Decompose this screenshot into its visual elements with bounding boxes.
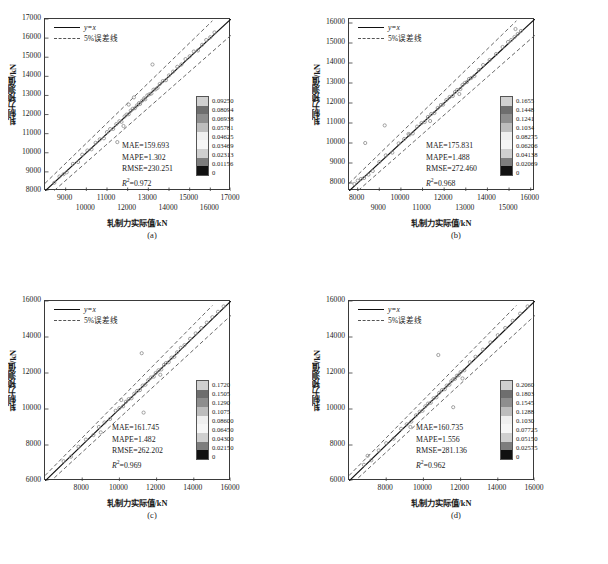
- x-tick-label: 15000: [167, 193, 211, 202]
- metric-rmse: RMSE=281.136: [416, 445, 467, 457]
- y-tick-label: 8000: [26, 185, 41, 194]
- dashed-line-icon: [358, 320, 384, 321]
- legend-item-identity: y=x: [358, 22, 422, 33]
- colorbar-strip: [500, 96, 513, 176]
- metrics-block: MAE=175.831MAPE=1.488RMSE=272.460R2=0.96…: [426, 140, 477, 186]
- y-tick-label: 17000: [22, 13, 41, 22]
- legend-label-identity: y=x: [84, 22, 96, 33]
- colorbar-swatch: [197, 114, 208, 123]
- panel-caption: (c): [0, 510, 304, 520]
- colorbar-swatch: [501, 97, 512, 106]
- colorbar-swatch: [197, 158, 208, 167]
- colorbar-swatch: [197, 407, 208, 416]
- colorbar-tick-label: 0.02313: [212, 150, 233, 159]
- colorbar-swatch: [197, 106, 208, 115]
- colorbar-tick-label: 0.05150: [516, 434, 537, 443]
- colorbar-labels: 0.092500.080940.069380.057810.046250.034…: [212, 96, 233, 174]
- colorbar-tick-label: 0.2060: [516, 380, 537, 389]
- y-tick-label: 6000: [26, 475, 41, 484]
- y-tick-label: 8000: [26, 439, 41, 448]
- colorbar-tick-label: 0.06206: [516, 141, 537, 150]
- colorbar-labels: 0.20600.18030.15450.12880.10300.077250.0…: [516, 380, 537, 458]
- x-tick-label: 12000: [421, 193, 465, 202]
- colorbar-tick-label: 0.06450: [212, 425, 233, 434]
- y-tick-label: 10000: [22, 147, 41, 156]
- colorbar-swatch: [501, 407, 512, 416]
- legend-item-error-band: 5%误差线: [358, 315, 422, 326]
- colorbar-tick-label: 0.07725: [516, 425, 537, 434]
- metric-mape: MAPE=1.482: [112, 434, 163, 446]
- colorbar-tick-label: 0.1655: [516, 96, 537, 105]
- metric-r2: R2=0.962: [416, 457, 467, 469]
- colorbar-swatch: [197, 97, 208, 106]
- colorbar-tick-label: 0.1720: [212, 380, 233, 389]
- colorbar-tick-label: 0.1030: [516, 416, 537, 425]
- y-tick-label: 6000: [330, 475, 345, 484]
- colorbar-swatch: [197, 140, 208, 149]
- colorbar-swatch: [197, 416, 208, 425]
- colorbar-swatch: [501, 132, 512, 141]
- y-axis-label: 轧制力预测值/kN: [8, 64, 20, 125]
- legend-label-identity: y=x: [84, 304, 96, 315]
- x-tick-label: 12000: [105, 203, 149, 212]
- dashed-line-icon: [54, 38, 80, 39]
- colorbar-swatch: [197, 433, 208, 442]
- colorbar-tick-label: 0.1448: [516, 105, 537, 114]
- metric-mape: MAPE=1.556: [416, 434, 467, 446]
- y-axis-label: 轧制力预测值/kN: [312, 350, 324, 411]
- metric-r2: R2=0.969: [112, 457, 163, 469]
- dashed-line-icon: [358, 38, 384, 39]
- metric-mae: MAE=175.831: [426, 140, 477, 152]
- legend-label-identity: y=x: [388, 304, 400, 315]
- colorbar-swatch: [197, 398, 208, 407]
- colorbar-tick-label: 0.1545: [516, 398, 537, 407]
- colorbar-tick-label: 0: [212, 452, 233, 461]
- y-tick-label: 9000: [330, 157, 345, 166]
- x-tick-label: 11000: [84, 193, 128, 202]
- colorbar-tick-label: 0.04625: [212, 132, 233, 141]
- x-tick-label: 16000: [187, 203, 231, 212]
- x-tick-label: 16000: [508, 193, 552, 202]
- x-axis-label: 轧制力实际值/kN: [44, 496, 230, 508]
- metric-rmse: RMSE=230.251: [122, 163, 173, 175]
- colorbar-swatch: [197, 381, 208, 390]
- y-tick-label: 13000: [22, 89, 41, 98]
- legend-label-identity: y=x: [388, 22, 400, 33]
- legend-label-error-band: 5%误差线: [84, 33, 118, 44]
- legend: y=x5%误差线: [358, 304, 422, 326]
- y-tick-label: 8000: [330, 177, 345, 186]
- colorbar-tick-label: 0.03469: [212, 141, 233, 150]
- scatter-panel-b: 8000900010000110001200013000140001500016…: [304, 0, 608, 282]
- y-tick-label: 12000: [22, 109, 41, 118]
- colorbar-tick-label: 0.08275: [516, 132, 537, 141]
- y-tick-label: 12000: [22, 367, 41, 376]
- y-tick-label: 8000: [330, 439, 345, 448]
- colorbar-tick-label: 0.09250: [212, 96, 233, 105]
- colorbar-tick-label: 0: [516, 452, 537, 461]
- y-tick-label: 14000: [22, 331, 41, 340]
- colorbar-strip: [196, 380, 209, 460]
- colorbar-tick-label: 0.05781: [212, 123, 233, 132]
- y-tick-label: 12000: [326, 97, 345, 106]
- colorbar-tick-label: 0.1075: [212, 407, 233, 416]
- y-tick-label: 16000: [22, 32, 41, 41]
- metric-r2: R2=0.972: [122, 175, 173, 187]
- y-axis-label: 轧制力预测值/kN: [8, 350, 20, 411]
- y-tick-label: 13000: [326, 77, 345, 86]
- legend-item-error-band: 5%误差线: [358, 33, 422, 44]
- x-tick-label: 17000: [208, 193, 252, 202]
- legend: y=x5%误差线: [54, 304, 118, 326]
- x-tick-label: 9000: [43, 193, 87, 202]
- colorbar-tick-label: 0.08094: [212, 105, 233, 114]
- colorbar-labels: 0.16550.14480.12410.10340.082750.062060.…: [516, 96, 537, 174]
- legend-item-identity: y=x: [54, 22, 118, 33]
- x-tick-label: 16000: [208, 483, 252, 492]
- x-tick-label: 16000: [512, 483, 556, 492]
- colorbar-swatch: [197, 390, 208, 399]
- colorbar-swatch: [197, 442, 208, 451]
- colorbar-tick-label: 0.06938: [212, 114, 233, 123]
- colorbar-swatch: [501, 106, 512, 115]
- panel-caption: (b): [304, 230, 608, 240]
- colorbar-tick-label: 0: [212, 168, 233, 177]
- x-tick-label: 13000: [443, 203, 487, 212]
